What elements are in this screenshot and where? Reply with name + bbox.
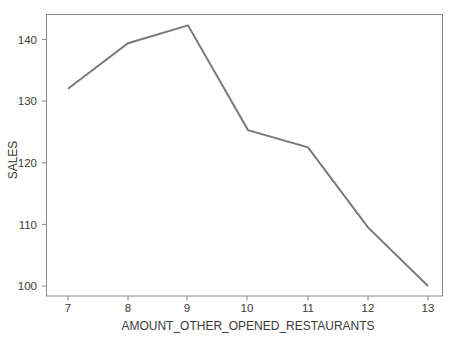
y-axis-title: SALES bbox=[6, 141, 20, 180]
chart-canvas: 140 130 120 110 100 SALES 7 8 9 bbox=[0, 0, 456, 343]
x-tick-label: 8 bbox=[125, 302, 131, 314]
y-tick-label: 130 bbox=[18, 95, 37, 107]
x-tick-label: 9 bbox=[184, 302, 190, 314]
y-tick-label: 110 bbox=[19, 219, 37, 231]
y-tick-label: 120 bbox=[18, 157, 37, 169]
y-tick-label: 100 bbox=[18, 280, 37, 292]
x-tick-label: 13 bbox=[422, 302, 435, 314]
x-axis-title: AMOUNT_OTHER_OPENED_RESTAURANTS bbox=[121, 319, 374, 333]
x-tick-label: 11 bbox=[302, 302, 314, 314]
y-tick-label: 140 bbox=[18, 34, 37, 46]
x-tick-label: 12 bbox=[362, 302, 375, 314]
x-tick-label: 7 bbox=[65, 302, 71, 314]
line-chart: 140 130 120 110 100 SALES 7 8 9 bbox=[0, 0, 456, 343]
chart-background bbox=[0, 0, 456, 343]
x-tick-label: 10 bbox=[241, 302, 254, 314]
